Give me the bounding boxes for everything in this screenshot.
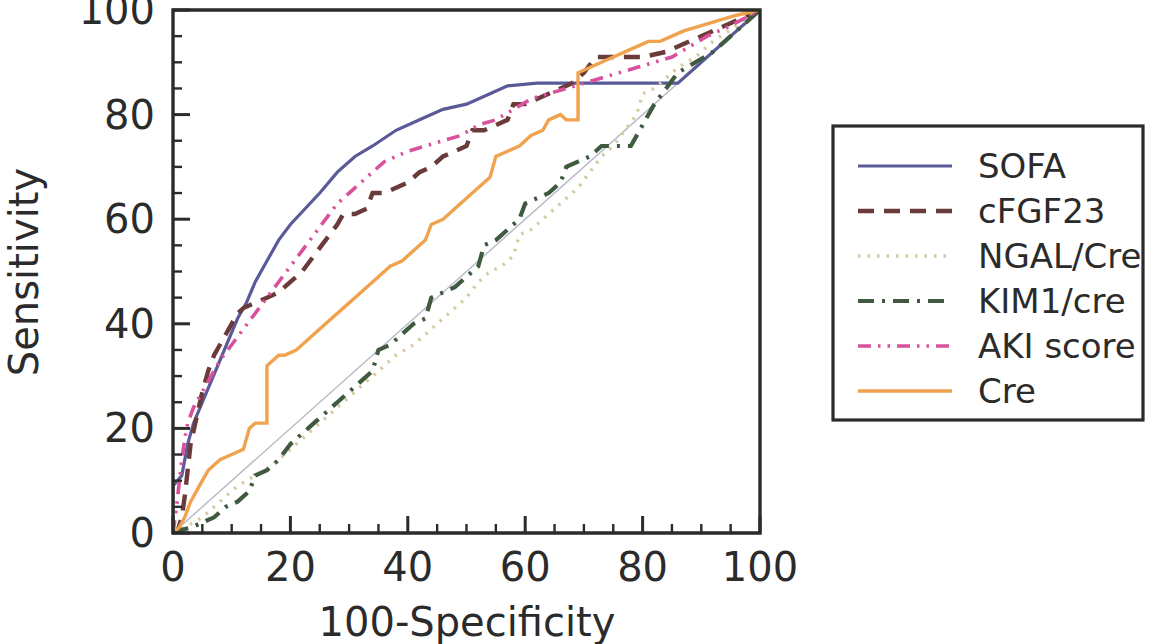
legend-label-ngal-cre: NGAL/Cre [978,236,1141,276]
y-tick-label: 0 [130,510,155,556]
chart-legend: SOFAcFGF23NGAL/CreKIM1/creAKI scoreCre [833,126,1143,420]
tick-labels-group: 020406080100020406080100 [79,0,799,590]
chart-canvas: 020406080100020406080100 100-Specificity… [0,0,1168,644]
x-tick-label: 0 [160,544,185,590]
x-tick-label: 40 [382,544,433,590]
legend-label-kim1-cre: KIM1/cre [978,281,1126,321]
x-axis-title: 100-Specificity [319,599,616,644]
x-tick-label: 80 [617,544,668,590]
legend-label-cre: Cre [978,371,1036,411]
x-tick-label: 20 [265,544,316,590]
x-tick-label: 60 [500,544,551,590]
y-axis-title: Sensitivity [1,168,47,376]
y-tick-label: 60 [104,196,155,242]
y-tick-label: 100 [79,0,155,33]
legend-label-sofa: SOFA [978,146,1066,186]
y-tick-label: 20 [104,405,155,451]
y-tick-label: 40 [104,301,155,347]
legend-label-cfgf23: cFGF23 [978,191,1105,231]
x-tick-label: 100 [722,544,798,590]
plot-area [173,10,760,533]
roc-curve-figure: 020406080100020406080100 100-Specificity… [0,0,1168,644]
legend-label-aki-score: AKI score [978,326,1136,366]
y-tick-label: 80 [104,92,155,138]
